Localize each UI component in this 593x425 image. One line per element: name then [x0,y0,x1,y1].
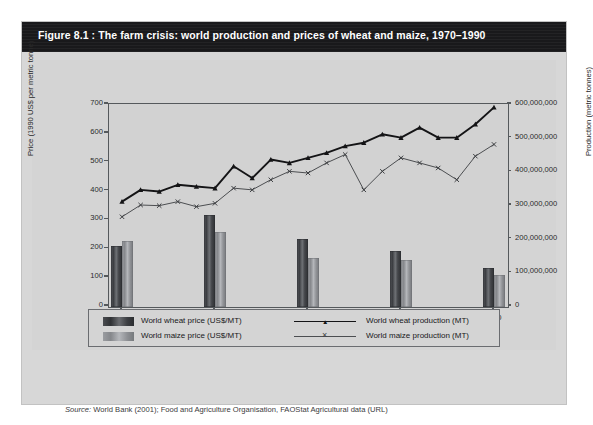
marker-x [362,188,366,192]
figure-panel: Figure 8.1 : The farm crisis: world prod… [22,22,566,404]
plot-inner [109,104,508,307]
y-axis-left-tick-label: 400 [90,185,103,194]
marker-x [455,178,459,182]
marker-triangle [417,125,422,130]
lines-layer [109,104,507,306]
y-axis-right-tick-label: 0 [515,300,519,309]
y-axis-left-tick-label: 200 [90,242,103,251]
y-axis-right-tick-label: 400,000,000 [515,165,557,174]
y-axis-right-title: Production (metric tonnes) [584,67,593,156]
legend-item[interactable]: ▲World wheat production (MT) [89,314,499,329]
marker-x [473,154,477,158]
y-axis-left-tick-label: 0 [99,300,103,309]
legend-marker-x-icon: × [322,331,327,339]
marker-x [120,215,124,219]
marker-x [343,152,347,156]
y-axis-left-tick-label: 600 [90,127,103,136]
legend-item[interactable]: ×World maize production (MT) [89,329,499,344]
line-wheat-production [119,105,496,204]
figure-header-band: Figure 8.1 : The farm crisis: world prod… [22,22,566,52]
y-axis-right-tick-label: 600,000,000 [515,98,557,107]
chart-legend: World wheat price (US$/MT)World maize pr… [88,309,500,347]
source-note: Source: World Bank (2001); Food and Agri… [65,405,388,414]
y-axis-right-tick-label: 300,000,000 [515,199,557,208]
marker-triangle [231,164,236,169]
chart-card: Price (1990 US$ per metric tonne) Produc… [32,60,556,350]
marker-x [492,142,496,146]
marker-triangle [491,105,496,110]
y-axis-right-tick-label: 500,000,000 [515,132,557,141]
marker-x [269,178,273,182]
y-axis-left-title: Price (1990 US$ per metric tonne) [26,41,35,156]
legend-item-label: World maize production (MT) [366,331,469,340]
legend-item-label: World wheat production (MT) [366,316,469,325]
source-text: World Bank (2001); Food and Agriculture … [93,405,387,414]
legend-marker-triangle-icon: ▲ [322,318,328,326]
figure-caption-text: The farm crisis: world production and pr… [98,29,485,41]
line-maize-production [120,142,496,219]
y-axis-right-tick-label: 200,000,000 [515,233,557,242]
y-axis-right-tick-label: 100,000,000 [515,266,557,275]
figure-number: Figure 8.1 : [38,29,95,41]
marker-x [324,161,328,165]
y-axis-left-tick-label: 700 [90,98,103,107]
figure-caption: Figure 8.1 : The farm crisis: world prod… [38,29,486,41]
source-label: Source: [65,405,91,414]
plot-area [108,103,509,308]
y-axis-left-tick-label: 500 [90,156,103,165]
marker-x [380,169,384,173]
y-axis-left-tick-label: 300 [90,213,103,222]
y-axis-left-tick-label: 100 [90,271,103,280]
